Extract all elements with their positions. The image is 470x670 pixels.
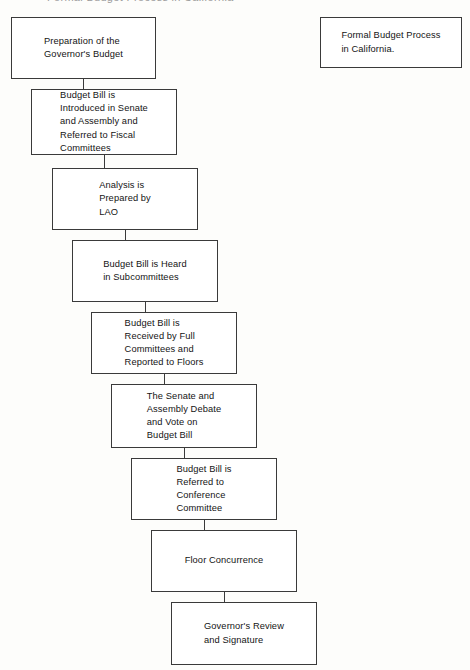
clipped-header-strip: Formal Budget Process in California bbox=[0, 0, 470, 9]
flow-connector-2-3 bbox=[104, 155, 105, 168]
clipped-header-text: Formal Budget Process in California bbox=[47, 0, 234, 3]
flow-node-budget-bill-introduced: Budget Bill is Introduced in Senate and … bbox=[31, 89, 177, 155]
flow-node-label: Budget Bill is Heard in Subcommittees bbox=[103, 258, 187, 284]
chart-title-text: Formal Budget Process in California. bbox=[341, 29, 440, 55]
flow-node-label: The Senate and Assembly Debate and Vote … bbox=[147, 390, 221, 443]
flow-node-budget-bill-referred-conference: Budget Bill is Referred to Conference Co… bbox=[131, 458, 277, 520]
flow-node-label: Preparation of the Governor's Budget bbox=[44, 35, 123, 61]
chart-title-box: Formal Budget Process in California. bbox=[320, 17, 462, 68]
budget-process-flowchart: Formal Budget Process in California Form… bbox=[0, 0, 470, 670]
flow-node-senate-assembly-debate-vote: The Senate and Assembly Debate and Vote … bbox=[111, 384, 257, 448]
flow-connector-6-7 bbox=[184, 448, 185, 458]
flow-node-label: Budget Bill is Received by Full Committe… bbox=[125, 317, 204, 370]
flow-node-label: Floor Concurrence bbox=[185, 554, 264, 567]
flow-node-label: Governor's Review and Signature bbox=[204, 620, 284, 646]
flow-node-preparation-of-governors-budget: Preparation of the Governor's Budget bbox=[11, 17, 156, 79]
flow-node-label: Budget Bill is Referred to Conference Co… bbox=[176, 463, 231, 516]
flow-node-analysis-prepared-by-lao: Analysis is Prepared by LAO bbox=[52, 168, 198, 230]
flow-node-budget-bill-received-full-committees: Budget Bill is Received by Full Committe… bbox=[91, 312, 237, 374]
flow-connector-4-5 bbox=[145, 302, 146, 312]
flow-node-floor-concurrence: Floor Concurrence bbox=[151, 530, 297, 592]
flow-node-budget-bill-heard-subcommittees: Budget Bill is Heard in Subcommittees bbox=[72, 240, 218, 302]
flow-node-label: Analysis is Prepared by LAO bbox=[99, 179, 151, 219]
flow-connector-8-9 bbox=[224, 592, 225, 602]
flow-node-governors-review-signature: Governor's Review and Signature bbox=[171, 602, 317, 665]
flow-connector-5-6 bbox=[164, 374, 165, 384]
flow-connector-3-4 bbox=[125, 230, 126, 240]
flow-node-label: Budget Bill is Introduced in Senate and … bbox=[60, 89, 148, 155]
flow-connector-1-2 bbox=[83, 79, 84, 89]
flow-connector-7-8 bbox=[204, 520, 205, 530]
